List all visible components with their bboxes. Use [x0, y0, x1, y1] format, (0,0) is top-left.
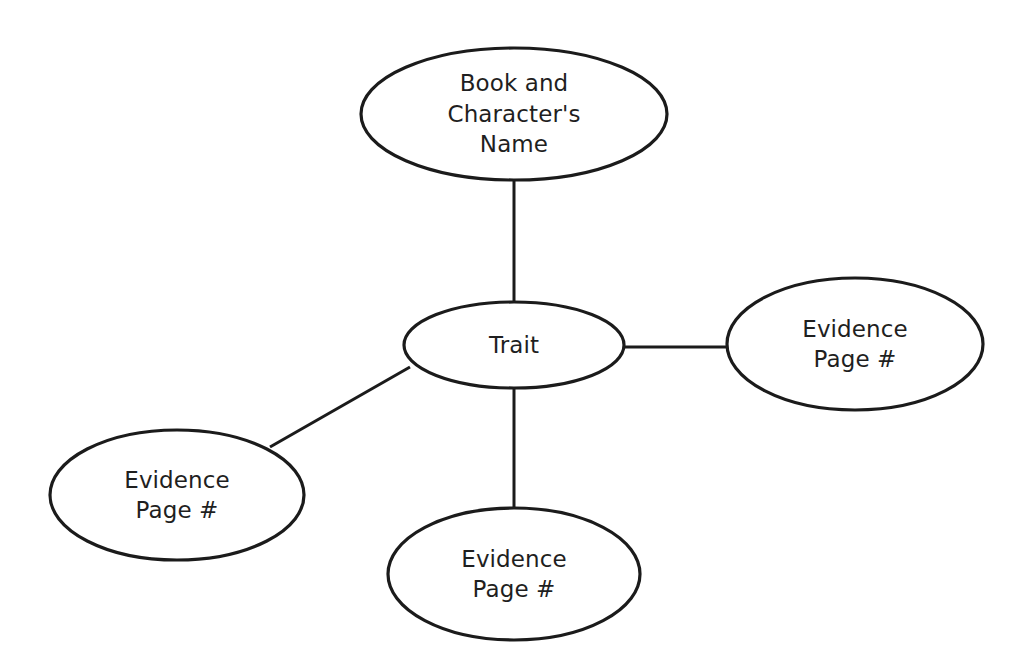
edge-trait-left — [270, 367, 410, 447]
node-trait[interactable] — [404, 302, 624, 388]
node-group — [50, 48, 983, 640]
node-evidence-left[interactable] — [50, 430, 304, 560]
diagram-canvas: Book and Character's Name Trait Evidence… — [0, 0, 1029, 671]
concept-web-graphic — [0, 0, 1029, 671]
node-evidence-right[interactable] — [727, 278, 983, 410]
node-book-character-name[interactable] — [361, 48, 667, 180]
node-evidence-bottom[interactable] — [388, 508, 640, 640]
